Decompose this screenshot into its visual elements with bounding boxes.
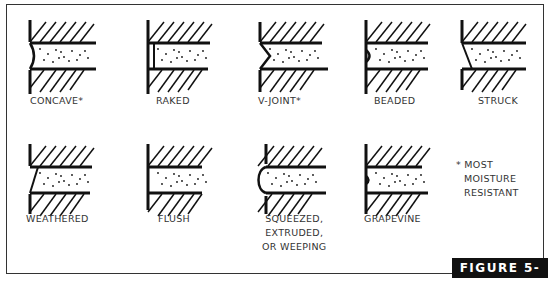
joint-v-joint-diagram: [256, 16, 336, 96]
joint-label: FLUSH: [158, 212, 190, 226]
moisture-note: * MOST MOISTURE RESISTANT: [456, 158, 519, 200]
joint-weathered-diagram: [26, 140, 106, 220]
joint-grapevine-diagram: [362, 140, 442, 220]
joint-beaded-diagram: [362, 16, 442, 96]
joint-squeezed-diagram: [254, 140, 334, 220]
joint-label: CONCAVE*: [30, 94, 83, 108]
joint-label: WEATHERED: [26, 212, 89, 226]
joint-label: BEADED: [374, 94, 415, 108]
joint-label: RAKED: [156, 94, 190, 108]
joint-concave-diagram: [26, 16, 106, 96]
joint-raked-diagram: [144, 16, 224, 96]
joint-label: V-JOINT*: [258, 94, 301, 108]
joint-struck-diagram: [458, 16, 538, 96]
joint-flush-diagram: [144, 140, 224, 220]
figure-label: FIGURE 5-23: [452, 258, 548, 278]
joint-label-multiline: SQUEEZED, EXTRUDED, OR WEEPING: [262, 212, 327, 254]
joint-label: STRUCK: [478, 94, 518, 108]
joint-label: GRAPEVINE: [364, 212, 421, 226]
